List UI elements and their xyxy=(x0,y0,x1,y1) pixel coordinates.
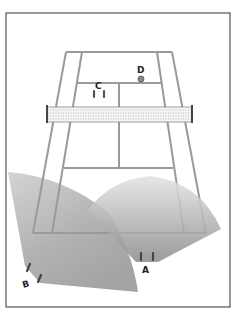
label-c: C xyxy=(95,81,102,91)
label-d: D xyxy=(137,65,144,75)
label-a: A xyxy=(142,265,149,275)
net xyxy=(47,105,192,123)
ball-icon xyxy=(138,76,144,82)
tennis-court-diagram: C D A B xyxy=(0,0,232,317)
